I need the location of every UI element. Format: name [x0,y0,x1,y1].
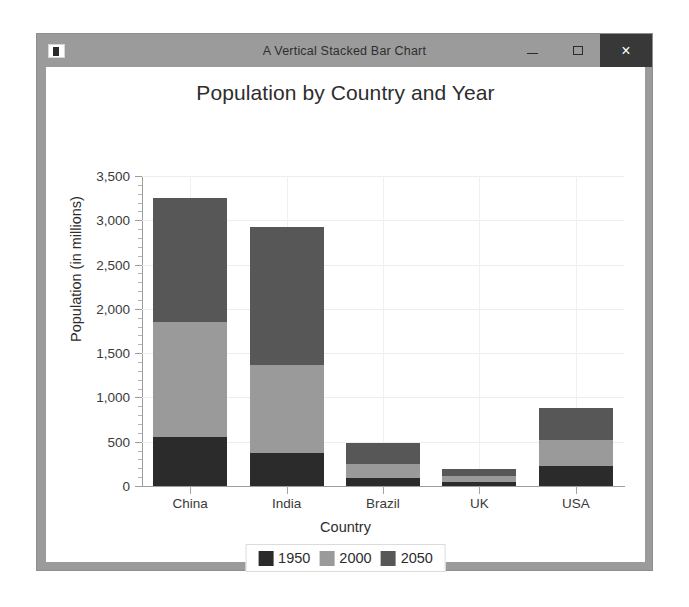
x-tick [576,486,577,494]
bar-china[interactable] [153,198,227,486]
bar-segment-brazil-1950[interactable] [346,478,420,486]
bar-segment-china-2000[interactable] [153,322,227,437]
legend-item-2050[interactable]: 2050 [381,550,433,566]
chart-canvas: Population (in millions) 05001,0001,5002… [46,67,645,562]
legend-item-2000[interactable]: 2000 [319,550,371,566]
legend-swatch-2000 [319,551,334,566]
y-tick-major [135,442,142,443]
y-tick-label: 3,500 [60,169,130,184]
y-tick-major [135,309,142,310]
x-tick-label-usa: USA [521,496,631,511]
y-tick-label: 2,000 [60,301,130,316]
y-tick-label: 2,500 [60,257,130,272]
bar-segment-uk-2050[interactable] [442,469,516,476]
x-tick-label-china: China [135,496,245,511]
bar-india[interactable] [250,227,324,486]
bar-segment-china-2050[interactable] [153,198,227,322]
x-tick [479,486,480,494]
y-tick-major [135,176,142,177]
maximize-button[interactable] [555,34,600,67]
chart-legend: 195020002050 [245,544,446,572]
bar-segment-usa-2050[interactable] [539,408,613,440]
legend-item-1950[interactable]: 1950 [258,550,310,566]
plot-area [142,176,624,486]
bar-segment-usa-2000[interactable] [539,440,613,466]
x-tick [287,486,288,494]
y-tick-major [135,486,142,487]
y-tick-label: 1,500 [60,346,130,361]
close-button[interactable]: × [600,34,652,67]
legend-label-2050: 2050 [401,550,433,566]
y-tick-label: 1,000 [60,390,130,405]
y-tick-major [135,265,142,266]
bar-segment-india-1950[interactable] [250,453,324,486]
x-tick [190,486,191,494]
gridline-vertical [479,176,480,486]
bar-segment-china-1950[interactable] [153,437,227,486]
x-tick [383,486,384,494]
y-tick-major [135,353,142,354]
window-titlebar[interactable]: A Vertical Stacked Bar Chart × [37,34,652,67]
bar-segment-usa-1950[interactable] [539,466,613,486]
x-axis-title: Country [46,519,645,535]
bar-usa[interactable] [539,408,613,486]
legend-swatch-2050 [381,551,396,566]
gridline-vertical [383,176,384,486]
bar-segment-brazil-2050[interactable] [346,443,420,464]
y-tick-major [135,397,142,398]
x-tick-label-india: India [232,496,342,511]
legend-swatch-1950 [258,551,273,566]
minimize-button[interactable] [510,34,555,67]
y-tick-major [135,220,142,221]
close-icon: × [621,42,630,60]
y-tick-label: 500 [60,434,130,449]
window-client-area: Population by Country and Year Populatio… [46,67,645,562]
bar-brazil[interactable] [346,443,420,486]
legend-label-2000: 2000 [339,550,371,566]
app-window-icon [48,44,65,58]
legend-label-1950: 1950 [278,550,310,566]
y-tick-label: 0 [60,479,130,494]
y-tick-label: 3,000 [60,213,130,228]
bar-segment-brazil-2000[interactable] [346,464,420,478]
bar-segment-india-2050[interactable] [250,227,324,364]
minimize-icon [527,53,538,54]
x-tick-label-brazil: Brazil [328,496,438,511]
maximize-icon [573,46,583,55]
bar-segment-india-2000[interactable] [250,365,324,454]
application-window: A Vertical Stacked Bar Chart × Populatio… [36,33,653,571]
x-tick-label-uk: UK [424,496,534,511]
bar-uk[interactable] [442,469,516,486]
